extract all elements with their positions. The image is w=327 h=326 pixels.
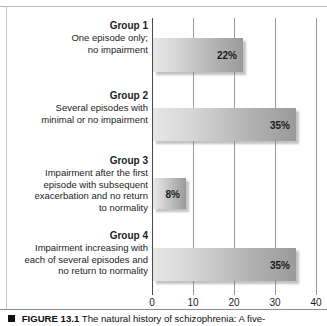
category-label-group-2: Group 2 Several episodes with minimal or… bbox=[6, 90, 152, 125]
category-desc-group-3-line-4: to normality bbox=[6, 202, 148, 214]
bar-value-group-1: 22% bbox=[217, 50, 237, 61]
bar-group-4: 35% bbox=[153, 248, 296, 281]
xtick-label-10: 10 bbox=[187, 297, 198, 308]
category-title-group-4: Group 4 bbox=[6, 230, 148, 242]
category-desc-group-3-line-3: exacerbation and no return bbox=[6, 190, 148, 202]
figure-caption: FIGURE 13.1 The natural history of schiz… bbox=[8, 313, 327, 325]
square-bullet-icon bbox=[8, 315, 15, 322]
category-desc-group-1-line-2: no impairment bbox=[6, 44, 148, 56]
bar-value-group-4: 35% bbox=[270, 259, 290, 270]
figure-caption-text: The natural history of schizophrenia: A … bbox=[82, 313, 265, 324]
bar-group-2: 35% bbox=[153, 108, 296, 141]
category-title-group-2: Group 2 bbox=[6, 90, 148, 102]
bar-group-1: 22% bbox=[153, 38, 243, 72]
category-label-group-4: Group 4 Impairment increasing with each … bbox=[6, 230, 152, 277]
category-label-group-3: Group 3 Impairment after the first episo… bbox=[6, 155, 152, 213]
category-desc-group-4-line-3: no return to normality bbox=[6, 265, 148, 277]
figure-caption-label: FIGURE 13.1 bbox=[22, 313, 80, 324]
value-axis-ticks: 0 10 20 30 40 bbox=[152, 297, 327, 311]
category-desc-group-1-line-1: One episode only; bbox=[6, 32, 148, 44]
xtick-label-20: 20 bbox=[228, 297, 239, 308]
category-desc-group-3-line-1: Impairment after the first bbox=[6, 167, 148, 179]
category-desc-group-3-line-2: episode with subsequent bbox=[6, 179, 148, 191]
xtick-label-30: 30 bbox=[269, 297, 280, 308]
frame-top-rule bbox=[0, 6, 327, 7]
category-desc-group-4-line-1: Impairment increasing with bbox=[6, 242, 148, 254]
xtick-label-40: 40 bbox=[310, 297, 321, 308]
gridline-40 bbox=[316, 18, 317, 295]
xtick-label-0: 0 bbox=[149, 297, 155, 308]
plot-area: 22% 35% 8% 35% bbox=[152, 18, 316, 295]
category-label-group-1: Group 1 One episode only; no impairment bbox=[6, 20, 152, 55]
bar-group-3: 8% bbox=[153, 178, 186, 209]
category-desc-group-4-line-2: each of several episodes and bbox=[6, 254, 148, 266]
category-axis-labels: Group 1 One episode only; no impairment … bbox=[0, 18, 152, 295]
category-title-group-3: Group 3 bbox=[6, 155, 148, 167]
category-title-group-1: Group 1 bbox=[6, 20, 148, 32]
bar-value-group-3: 8% bbox=[166, 188, 180, 199]
bar-value-group-2: 35% bbox=[270, 119, 290, 130]
category-desc-group-2-line-1: Several episodes with bbox=[6, 102, 148, 114]
figure-13-1: Group 1 One episode only; no impairment … bbox=[0, 0, 327, 326]
category-desc-group-2-line-2: minimal or no impairment bbox=[6, 114, 148, 126]
